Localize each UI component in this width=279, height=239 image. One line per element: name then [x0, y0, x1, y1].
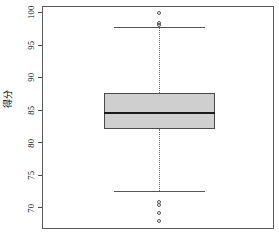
median-line	[104, 112, 215, 114]
outlier-point	[157, 23, 161, 27]
upper-whisker-line	[159, 27, 160, 93]
boxplot-figure: 得分 100 95 90 85 80 75 70	[0, 0, 279, 239]
lower-whisker-cap	[114, 191, 205, 192]
y-tick-label-100: 100	[27, 0, 36, 25]
outlier-point	[157, 211, 161, 215]
y-tick-label-85: 85	[27, 97, 36, 123]
box-iqr	[104, 93, 215, 129]
y-tick-label-80: 80	[27, 130, 36, 156]
upper-whisker-cap	[114, 27, 205, 28]
y-tick-label-95: 95	[27, 32, 36, 58]
outlier-point	[157, 203, 161, 207]
y-axis-label: 得分	[4, 75, 13, 123]
y-tick-label-75: 75	[27, 162, 36, 188]
y-tick-label-90: 90	[27, 64, 36, 90]
lower-whisker-line	[159, 129, 160, 191]
y-tick-label-70: 70	[27, 195, 36, 221]
outlier-point	[157, 11, 161, 15]
outlier-point	[157, 219, 161, 223]
